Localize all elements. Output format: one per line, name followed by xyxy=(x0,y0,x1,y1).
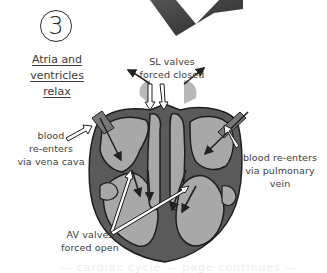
step-title: Atria and ventricles relax xyxy=(22,52,92,100)
label-line: blood re-enters xyxy=(238,151,322,164)
label-line: SL valves xyxy=(132,55,212,68)
title-line-2: ventricles xyxy=(30,68,84,84)
previous-step-arrow-icon xyxy=(150,0,243,36)
title-line-3: relax xyxy=(43,84,70,100)
sl-valves-label: SL valves forced closed xyxy=(132,55,212,81)
label-line: via vena cava xyxy=(16,155,86,168)
label-line: forced open xyxy=(52,241,128,254)
label-line: forced closed xyxy=(132,68,212,81)
label-line: vein xyxy=(238,177,322,190)
label-line: via pulmonary xyxy=(238,164,322,177)
step-number-badge: 3 xyxy=(40,10,72,42)
label-line: AV valves xyxy=(52,228,128,241)
av-valves-label: AV valves forced open xyxy=(52,228,128,254)
pulmonary-artery-stub xyxy=(184,80,197,104)
pulmonary-vein-label: blood re-enters via pulmonary vein xyxy=(238,151,322,190)
label-line: blood xyxy=(16,129,86,142)
bleed-through-text: — cardiac cycle — page continues — xyxy=(60,261,327,273)
title-line-1: Atria and xyxy=(32,52,82,68)
vena-cava-label: blood re-enters via vena cava xyxy=(16,129,86,168)
label-line: re-enters xyxy=(16,142,86,155)
